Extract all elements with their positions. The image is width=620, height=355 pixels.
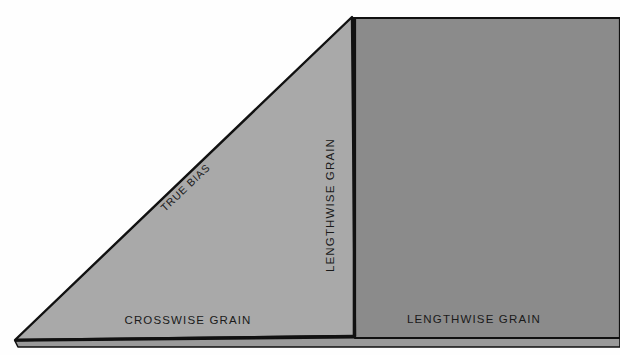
label-lengthwise-grain-vertical: LENGTHWISE GRAIN: [324, 138, 336, 272]
fabric-illustration: TRUE BIAS LENGTHWISE GRAIN CROSSWISE GRA…: [0, 0, 620, 355]
label-lengthwise-grain-bottom: LENGTHWISE GRAIN: [407, 313, 541, 325]
label-crosswise-grain: CROSSWISE GRAIN: [124, 314, 251, 326]
lengthwise-panel-shape: [355, 18, 620, 338]
fabric-grain-diagram: TRUE BIAS LENGTHWISE GRAIN CROSSWISE GRA…: [0, 0, 620, 355]
